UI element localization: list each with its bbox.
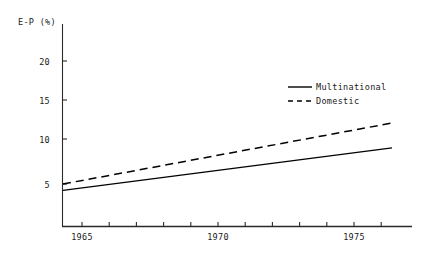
- y-tick-label-5: 5: [26, 180, 50, 190]
- y-axis-ticks: [63, 61, 68, 184]
- series-line-domestic: [63, 123, 392, 184]
- series-line-multinational: [63, 148, 392, 190]
- legend-label-multinational: Multinational: [316, 82, 386, 92]
- chart-figure: E-P (%) 5 10 15 20 1965 1970 1975 Multin…: [0, 0, 432, 265]
- y-tick-label-10: 10: [26, 135, 50, 145]
- chart-canvas: [0, 0, 432, 265]
- x-axis-ticks: [82, 222, 381, 227]
- y-axis-title: E-P (%): [18, 17, 56, 27]
- x-tick-label-1975: 1975: [334, 232, 374, 242]
- legend-label-domestic: Domestic: [316, 96, 359, 106]
- y-tick-label-15: 15: [26, 96, 50, 106]
- x-tick-label-1970: 1970: [198, 232, 238, 242]
- y-tick-label-20: 20: [26, 57, 50, 67]
- x-tick-label-1965: 1965: [62, 232, 102, 242]
